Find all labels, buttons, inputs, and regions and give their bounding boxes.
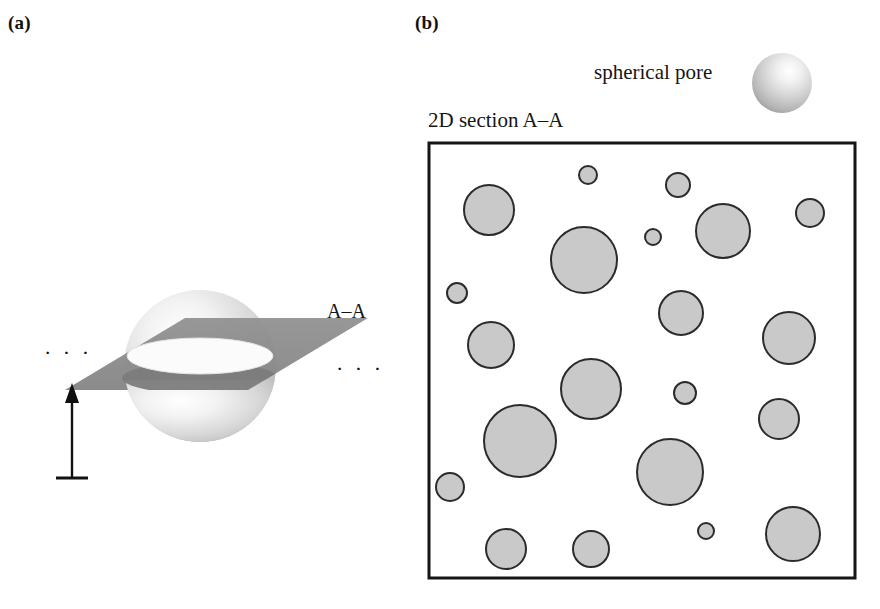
pore-circle — [561, 359, 621, 419]
pore-circle — [698, 523, 714, 539]
pore-circle — [484, 405, 556, 477]
pore-circle — [645, 229, 661, 245]
pore-circle — [447, 283, 467, 303]
pore-circle — [796, 199, 824, 227]
pore-circle — [763, 312, 815, 364]
pore-circle — [674, 382, 696, 404]
pore-circle — [551, 227, 617, 293]
pore-circle — [759, 399, 799, 439]
pore-circle — [436, 473, 464, 501]
spherical-pore-legend-icon — [752, 53, 812, 113]
pore-circle — [573, 531, 609, 567]
pore-circle — [659, 291, 703, 335]
pore-circle — [468, 322, 514, 368]
pore-circle — [579, 166, 597, 184]
pore-circle — [637, 439, 703, 505]
pore-circle — [666, 173, 690, 197]
panel-b-graphic — [0, 0, 880, 609]
pore-circle — [696, 204, 750, 258]
pore-circle — [766, 507, 820, 561]
pore-circle — [486, 529, 526, 569]
figure-root: (a) — [0, 0, 880, 609]
pore-circle — [464, 185, 514, 235]
